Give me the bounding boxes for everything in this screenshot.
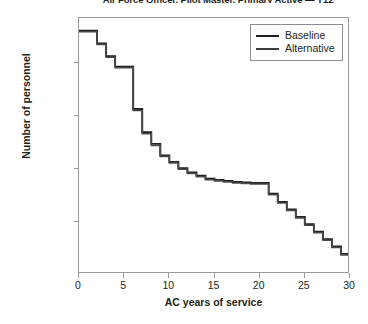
x-tick-label: 0 xyxy=(63,279,93,291)
x-tick-mark xyxy=(168,273,169,278)
x-tick-label: 20 xyxy=(244,279,274,291)
legend-line-alternative-icon xyxy=(256,48,279,50)
chart-container: Air Force Officer, Pilot Master, Primary… xyxy=(0,0,368,324)
x-tick-label: 5 xyxy=(108,279,138,291)
legend-label-alternative: Alternative xyxy=(285,42,335,55)
x-tick-mark xyxy=(214,273,215,278)
x-tick-label: 30 xyxy=(334,279,364,291)
x-tick-label: 15 xyxy=(199,279,229,291)
legend-item-baseline: Baseline xyxy=(256,29,335,42)
x-tick-mark xyxy=(349,273,350,278)
y-tick-mark xyxy=(74,115,79,116)
x-axis-label: AC years of service xyxy=(78,296,349,308)
y-tick-mark xyxy=(74,221,79,222)
y-tick-mark xyxy=(74,168,79,169)
x-tick-mark xyxy=(259,273,260,278)
x-tick-mark xyxy=(78,273,79,278)
y-axis-label: Number of personnel xyxy=(20,31,32,181)
legend-line-baseline-icon xyxy=(256,35,279,37)
x-tick-label: 10 xyxy=(153,279,183,291)
chart-legend: Baseline Alternative xyxy=(250,24,343,61)
legend-item-alternative: Alternative xyxy=(256,42,335,55)
chart-title: Air Force Officer, Pilot Master, Primary… xyxy=(84,0,352,3)
x-tick-mark xyxy=(304,273,305,278)
y-tick-mark xyxy=(74,62,79,63)
x-tick-mark xyxy=(123,273,124,278)
legend-label-baseline: Baseline xyxy=(285,29,325,42)
x-tick-label: 25 xyxy=(289,279,319,291)
